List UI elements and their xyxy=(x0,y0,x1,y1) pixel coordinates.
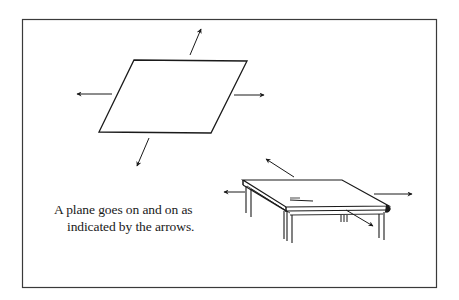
table-top xyxy=(243,180,389,207)
table-illustration xyxy=(224,159,412,243)
parallelogram-shape xyxy=(99,60,247,133)
caption-line-1: A plane goes on and on as xyxy=(54,201,192,218)
arrow-down-icon xyxy=(137,138,149,166)
plane-diagram xyxy=(0,0,459,300)
abstract-plane xyxy=(77,29,264,166)
arrow-up-icon xyxy=(190,29,201,55)
table-arrow-front-icon xyxy=(346,210,373,226)
table-arrow-back-icon xyxy=(266,159,294,177)
figure-frame xyxy=(23,20,437,288)
caption-line-2: indicated by the arrows. xyxy=(67,218,194,235)
